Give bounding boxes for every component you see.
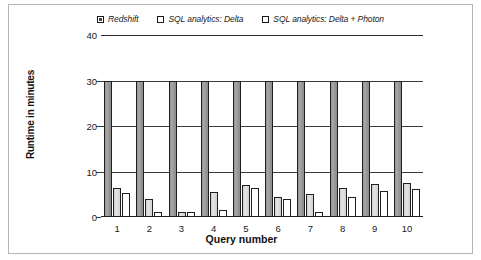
bar-delta [339,188,347,217]
bar-photon [219,210,227,217]
bar-group: 2 [133,35,165,217]
bar-redshift [330,81,338,218]
bar-group: 5 [230,35,262,217]
bar-delta [145,199,153,217]
bar-photon [412,189,420,217]
bar-redshift [169,81,177,218]
bar-delta [113,188,121,217]
bar-redshift [297,81,305,218]
bar-delta [403,183,411,217]
y-tick-mark [96,217,101,218]
bar-group: 9 [359,35,391,217]
bar-photon [187,212,195,217]
bar-redshift [233,81,241,218]
y-axis-title: Runtime in minutes [25,50,36,180]
bar-photon [154,212,162,217]
bar-delta [210,192,218,217]
bar-delta [274,197,282,217]
y-tick-label: 40 [86,30,97,41]
bar-groups: 12345678910 [101,35,423,217]
bar-photon [348,197,356,217]
bar-redshift [362,81,370,218]
bar-photon [315,212,323,217]
bar-group: 6 [262,35,294,217]
bar-group: 8 [326,35,358,217]
bar-delta [242,185,250,217]
chart-frame: Redshift SQL analytics: Delta SQL analyt… [8,4,473,254]
bar-redshift [201,81,209,218]
bar-delta [306,194,314,217]
bar-photon [122,193,130,217]
bar-photon [380,191,388,217]
bar-photon [283,199,291,217]
bar-redshift [136,81,144,218]
bar-group: 3 [165,35,197,217]
bar-redshift [394,81,402,218]
x-axis-title: Query number [9,233,474,245]
bar-redshift [104,81,112,218]
bar-group: 10 [391,35,423,217]
bar-redshift [265,81,273,218]
bar-group: 4 [198,35,230,217]
bar-group: 1 [101,35,133,217]
plot-wrapper: Runtime in minutes 010203040 12345678910… [9,5,474,255]
bar-delta [371,184,379,217]
bar-group: 7 [294,35,326,217]
chart-figure: Redshift SQL analytics: Delta SQL analyt… [0,0,481,260]
bar-delta [178,212,186,217]
plot-area: 010203040 12345678910 [101,35,423,217]
bar-photon [251,188,259,217]
